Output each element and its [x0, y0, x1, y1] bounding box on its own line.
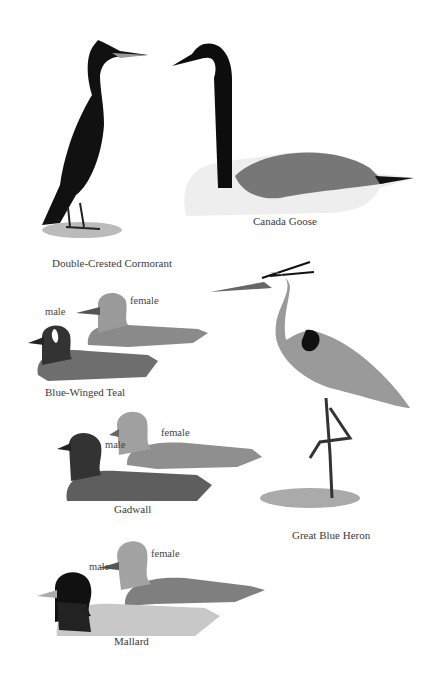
label-cormorant: Double-Crested Cormorant	[52, 257, 172, 269]
sex-label-gadwall-female: female	[161, 427, 190, 438]
label-blue-winged-teal: Blue-Winged Teal	[45, 386, 125, 398]
sex-label-teal-female: female	[130, 295, 159, 306]
sex-label-mallard-male: male	[89, 561, 109, 572]
canada-goose-illustration	[170, 38, 420, 218]
label-mallard: Mallard	[114, 635, 149, 647]
blue-winged-teal-illustration	[28, 285, 213, 385]
cormorant-illustration	[20, 35, 160, 235]
label-great-blue-heron: Great Blue Heron	[292, 529, 370, 541]
great-blue-heron-illustration	[210, 258, 420, 518]
label-gadwall: Gadwall	[114, 503, 151, 515]
label-canada-goose: Canada Goose	[253, 215, 317, 227]
sex-label-teal-male: male	[45, 306, 65, 317]
sex-label-gadwall-male: male	[105, 439, 125, 450]
sex-label-mallard-female: female	[151, 548, 180, 559]
